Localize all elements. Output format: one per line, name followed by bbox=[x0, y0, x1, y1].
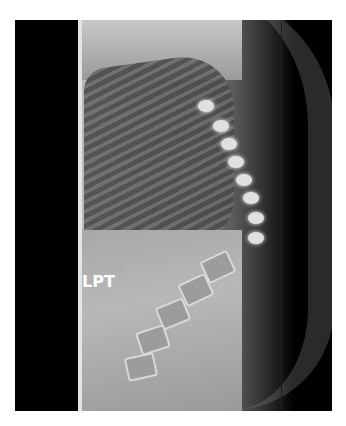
back-contour bbox=[198, 20, 332, 410]
spinous-process bbox=[228, 156, 244, 168]
spinous-process bbox=[248, 212, 264, 224]
image-label: LPT bbox=[82, 272, 115, 291]
spinous-process bbox=[221, 138, 237, 150]
spinous-process bbox=[243, 192, 259, 204]
spinous-process bbox=[198, 100, 214, 112]
xray-frame: LPT bbox=[15, 20, 332, 411]
bright-edge bbox=[78, 20, 82, 411]
xray-image: LPT bbox=[78, 20, 332, 411]
spinous-process bbox=[248, 232, 264, 244]
spinous-process bbox=[236, 174, 252, 186]
spinous-process bbox=[213, 120, 229, 132]
detector-line bbox=[281, 20, 282, 411]
